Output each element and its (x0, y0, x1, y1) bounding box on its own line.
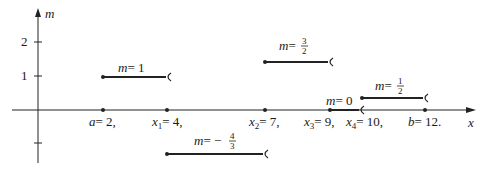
svg-text:3: 3 (302, 36, 307, 46)
label-b: b= 12. (408, 114, 441, 129)
open-end-icon (330, 58, 333, 66)
dot (328, 108, 332, 112)
ytick-label-1: 1 (21, 68, 28, 83)
point-a (101, 108, 105, 112)
label-a: a= 2, (89, 114, 116, 129)
svg-text:2: 2 (302, 46, 307, 56)
y-axis-arrow-icon (35, 8, 41, 17)
ytick-label-2: 2 (21, 34, 28, 49)
point-x2 (263, 108, 267, 112)
dot (263, 60, 267, 64)
point-x1 (165, 108, 169, 112)
open-end-icon (425, 94, 428, 102)
segment-label-m3-2: m= 3 2 (279, 36, 308, 56)
svg-text:3: 3 (230, 141, 235, 151)
svg-text:1: 1 (398, 76, 403, 86)
x-axis-arrow-icon (466, 107, 476, 113)
svg-text:2: 2 (398, 86, 403, 96)
open-end-icon (265, 150, 268, 158)
svg-text:m=: m= (375, 78, 392, 93)
segment-label-m-neg4-3: m= − 4 3 (194, 131, 236, 151)
segment-label-m0: m= 0 (326, 93, 352, 108)
segments (103, 58, 428, 158)
svg-text:m= −: m= − (194, 133, 221, 148)
svg-text:m=: m= (279, 38, 296, 53)
point-b (423, 108, 427, 112)
label-x4: x4= 10, (345, 114, 383, 131)
dot (165, 152, 169, 156)
label-x2: x2= 7, (248, 114, 280, 131)
segment-label-m1-2: m= 1 2 (375, 76, 404, 96)
step-function-chart: m x 2 1 a= 2, x1= 4, x2= 7, x3= 9, x4= 1… (0, 0, 487, 169)
label-x3: x3= 9, (303, 114, 335, 131)
label-x1: x1= 4, (151, 114, 183, 131)
x-axis-label: x (467, 115, 474, 130)
segment-label-m1: m= 1 (118, 60, 144, 75)
dot (101, 75, 105, 79)
open-end-icon (168, 73, 171, 81)
dot (360, 96, 364, 100)
y-axis-label: m (45, 6, 54, 21)
svg-text:4: 4 (230, 131, 235, 141)
